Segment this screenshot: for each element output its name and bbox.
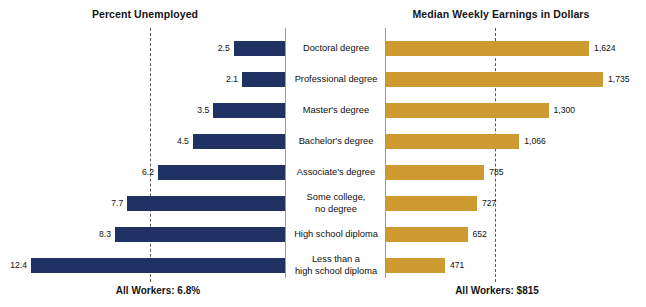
unemployment-bar-track: 6.2: [0, 165, 285, 180]
earnings-bar: [386, 41, 589, 56]
earnings-bar-track: 1,066: [386, 134, 646, 149]
earnings-bar-track: 1,624: [386, 41, 646, 56]
earnings-value-label: 1,624: [589, 41, 616, 56]
unemployment-value-label: 12.4: [10, 258, 31, 273]
chart-row: 12.4Less than ahigh school diploma471: [0, 250, 646, 281]
unemployment-value-label: 8.3: [99, 227, 115, 242]
unemployment-bar-track: 12.4: [0, 258, 285, 273]
chart-row: 2.5Doctoral degree1,624: [0, 33, 646, 64]
category-label: Associate's degree: [288, 157, 384, 188]
unemployment-value-label: 4.5: [177, 134, 193, 149]
earnings-value-label: 1,300: [549, 103, 576, 118]
right-panel-title: Median Weekly Earnings in Dollars: [356, 8, 646, 20]
category-label: Doctoral degree: [288, 33, 384, 64]
chart-row: 6.2Associate's degree785: [0, 157, 646, 188]
earnings-bar-track: 471: [386, 258, 646, 273]
unemployment-bar-track: 7.7: [0, 196, 285, 211]
unemployment-bar-track: 2.5: [0, 41, 285, 56]
earnings-bar: [386, 196, 477, 211]
earnings-value-label: 652: [468, 227, 487, 242]
category-label: Professional degree: [288, 64, 384, 95]
earnings-value-label: 471: [445, 258, 464, 273]
chart-row: 4.5Bachelor's degree1,066: [0, 126, 646, 157]
earnings-bar-track: 785: [386, 165, 646, 180]
butterfly-chart: Percent Unemployed Median Weekly Earning…: [0, 0, 646, 307]
left-all-workers-note: All Workers: 6.8%: [30, 285, 286, 296]
unemployment-bar: [158, 165, 285, 180]
unemployment-bar-track: 3.5: [0, 103, 285, 118]
earnings-bar: [386, 103, 549, 118]
earnings-bar-track: 652: [386, 227, 646, 242]
chart-row: 7.7Some college,no degree727: [0, 188, 646, 219]
earnings-bar: [386, 72, 603, 87]
unemployment-value-label: 2.5: [218, 41, 234, 56]
earnings-value-label: 1,066: [519, 134, 546, 149]
category-label: High school diploma: [288, 219, 384, 250]
unemployment-bar: [213, 103, 285, 118]
unemployment-bar: [31, 258, 285, 273]
unemployment-value-label: 7.7: [111, 196, 127, 211]
unemployment-bar-track: 4.5: [0, 134, 285, 149]
unemployment-bar-track: 2.1: [0, 72, 285, 87]
unemployment-bar: [242, 72, 285, 87]
earnings-bar: [386, 227, 468, 242]
category-label: Some college,no degree: [288, 188, 384, 219]
chart-row: 2.1Professional degree1,735: [0, 64, 646, 95]
unemployment-bar: [127, 196, 285, 211]
left-panel-title: Percent Unemployed: [0, 8, 290, 20]
chart-row: 3.5Master's degree1,300: [0, 95, 646, 126]
earnings-value-label: 727: [477, 196, 496, 211]
unemployment-bar: [234, 41, 285, 56]
earnings-value-label: 1,735: [603, 72, 630, 87]
unemployment-bar: [115, 227, 285, 242]
unemployment-bar-track: 8.3: [0, 227, 285, 242]
earnings-bar-track: 1,735: [386, 72, 646, 87]
earnings-bar: [386, 134, 519, 149]
unemployment-value-label: 2.1: [226, 72, 242, 87]
earnings-bar-track: 727: [386, 196, 646, 211]
category-label: Less than ahigh school diploma: [288, 250, 384, 281]
unemployment-value-label: 6.2: [142, 165, 158, 180]
earnings-value-label: 785: [484, 165, 503, 180]
earnings-bar: [386, 258, 445, 273]
category-label: Master's degree: [288, 95, 384, 126]
category-label: Bachelor's degree: [288, 126, 384, 157]
earnings-bar-track: 1,300: [386, 103, 646, 118]
earnings-bar: [386, 165, 484, 180]
unemployment-bar: [193, 134, 285, 149]
right-all-workers-note: All Workers: $815: [386, 285, 608, 296]
chart-row: 8.3High school diploma652: [0, 219, 646, 250]
unemployment-value-label: 3.5: [197, 103, 213, 118]
